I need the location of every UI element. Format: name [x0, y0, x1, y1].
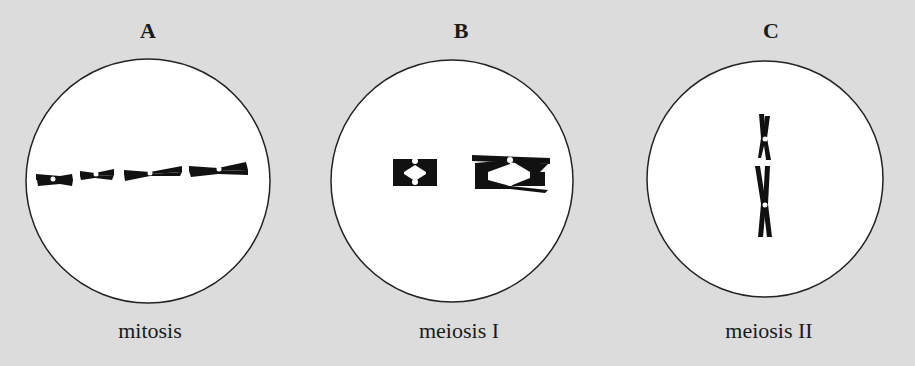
cell-division-diagram: A B C mitosis meiosis I meiosis II: [0, 0, 915, 366]
cell-a: [26, 59, 270, 303]
panel-c-caption: meiosis II: [669, 318, 869, 344]
panel-b-letter: B: [431, 18, 491, 44]
panel-b-caption: meiosis I: [359, 318, 559, 344]
panel-c-letter: C: [741, 18, 801, 44]
diagram-canvas: [0, 0, 915, 366]
chromosome-icon: [36, 174, 73, 186]
cell-c: [647, 61, 883, 297]
panel-a-letter: A: [118, 18, 178, 44]
cell-b: [331, 60, 573, 302]
panel-a-caption: mitosis: [50, 318, 250, 344]
